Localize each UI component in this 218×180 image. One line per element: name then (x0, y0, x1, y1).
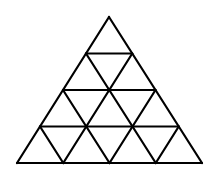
diagonal-line-left (156, 127, 179, 164)
triangle-lines (17, 17, 202, 163)
triangle-grid-diagram (0, 0, 218, 180)
diagonal-line-right (40, 127, 63, 164)
